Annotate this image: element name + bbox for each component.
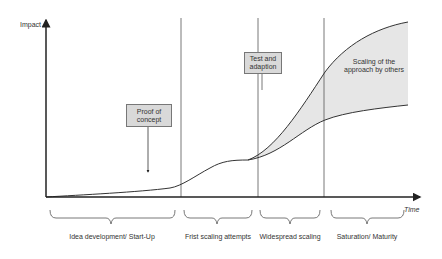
brace-phase-2: [184, 210, 252, 224]
phase-label-idea: Idea development/ Start-Up: [69, 233, 155, 240]
phase-label-first-scaling: Frist scaling attempts: [185, 233, 251, 240]
test-and-adaption-box: Test and adaption: [244, 52, 282, 74]
base-curve: [46, 160, 248, 197]
phase-label-saturation: Saturation/ Maturity: [337, 233, 398, 240]
brace-phase-4: [331, 210, 404, 224]
diagram-canvas: [0, 0, 442, 259]
x-axis-label: Time: [404, 206, 420, 213]
y-axis-label: Impact: [20, 21, 41, 28]
proof-of-concept-box: Proof of concept: [126, 104, 172, 127]
brace-phase-1: [50, 210, 175, 224]
scaling-by-others-label: Scaling of the approach by others: [344, 58, 404, 74]
brace-phase-3: [260, 210, 320, 224]
phase-label-widespread: Widespread scaling: [259, 233, 320, 240]
scaling-by-others-area: [248, 22, 408, 160]
